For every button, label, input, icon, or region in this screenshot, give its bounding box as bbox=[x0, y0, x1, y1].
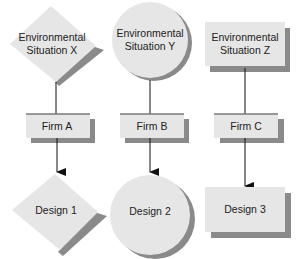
firm-a-label: Firm A bbox=[42, 120, 72, 133]
situation-x-line2: Situation X bbox=[18, 44, 85, 57]
situation-x-label: Environmental Situation X bbox=[18, 31, 85, 57]
firm-b-label: Firm B bbox=[137, 120, 168, 133]
design-3-label: Design 3 bbox=[224, 203, 265, 216]
design-2-label: Design 2 bbox=[129, 205, 170, 218]
situation-y-line2: Situation Y bbox=[116, 40, 183, 53]
situation-z-line2: Situation Z bbox=[211, 44, 278, 57]
situation-x-line1: Environmental bbox=[18, 31, 85, 44]
design-1-label: Design 1 bbox=[35, 204, 76, 217]
situation-z-label: Environmental Situation Z bbox=[211, 31, 278, 57]
situation-y-label: Environmental Situation Y bbox=[116, 27, 183, 53]
firm-c-label: Firm C bbox=[230, 120, 262, 133]
situation-z-line1: Environmental bbox=[211, 31, 278, 44]
situation-y-line1: Environmental bbox=[116, 27, 183, 40]
